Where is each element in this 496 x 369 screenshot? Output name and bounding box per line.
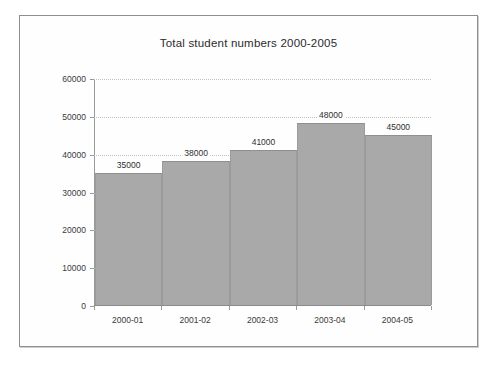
y-axis-tick-label: 30000 [62,188,86,198]
x-axis-tick-mark [364,306,365,310]
x-axis-tick-mark [296,306,297,310]
x-axis-tick-mark [229,306,230,310]
bar-2003-04 [297,123,364,305]
y-axis-tick-mark [90,79,94,80]
bar-column: 45000 [365,79,432,305]
x-axis-tick-mark [94,306,95,310]
bar-2004-05 [365,135,432,305]
y-axis-tick-label: 20000 [62,225,86,235]
bar-value-label: 38000 [182,148,210,158]
y-axis-tick-label: 60000 [62,74,86,84]
x-axis-tick-label: 2003-04 [314,315,345,325]
y-axis-tick-mark [90,230,94,231]
bar-chart-figure: Total student numbers 2000-2005 01000020… [20,16,477,346]
bar-column: 38000 [162,79,229,305]
bar-2001-02 [162,161,229,305]
x-axis-line [94,305,431,306]
y-axis-tick-label: 50000 [62,112,86,122]
bar-value-label: 41000 [250,137,278,147]
bar-column: 48000 [297,79,364,305]
y-axis-tick-label: 0 [81,301,86,311]
bar-value-label: 48000 [317,110,345,120]
x-axis-tick-label: 2002-03 [247,315,278,325]
y-axis-tick-label: 40000 [62,150,86,160]
chart-title: Total student numbers 2000-2005 [20,37,477,49]
bar-value-label: 45000 [384,122,412,132]
bar-2002-03 [230,150,297,305]
bar-value-label: 35000 [115,160,143,170]
y-axis-tick-label: 10000 [62,263,86,273]
document-page: Total student numbers 2000-2005 01000020… [19,15,478,347]
x-axis-tick-mark [161,306,162,310]
plot-area: 0100002000030000400005000060000 35000380… [94,79,431,306]
bar-2000-01 [95,173,162,305]
y-axis-tick-mark [90,268,94,269]
y-axis-tick-mark [90,193,94,194]
bar-column: 35000 [95,79,162,305]
y-axis-tick-mark [90,155,94,156]
x-axis-tick-label: 2004-05 [382,315,413,325]
x-axis-tick-label: 2001-02 [179,315,210,325]
bar-column: 41000 [230,79,297,305]
x-axis-tick-mark [431,306,432,310]
x-axis-tick-label: 2000-01 [112,315,143,325]
y-axis-tick-mark [90,117,94,118]
bars-layer: 3500038000410004800045000 [95,79,431,305]
